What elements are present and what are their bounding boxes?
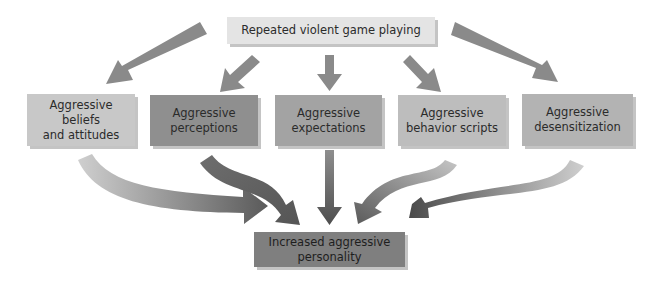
arrow-scripts-to-outcome: [354, 160, 457, 224]
arrow-to-expectations: [317, 55, 342, 91]
scripts-line2: behavior scripts: [406, 121, 498, 135]
box-aggressive-perceptions: Aggressive perceptions: [150, 95, 258, 146]
beliefs-label: Aggressive beliefs and attitudes: [31, 98, 131, 143]
box-aggressive-expectations: Aggressive expectations: [275, 95, 382, 146]
source-label: Repeated violent game playing: [241, 23, 421, 38]
outcome-line1: Increased aggressive: [269, 235, 391, 249]
box-aggressive-desensitization: Aggressive desensitization: [522, 94, 633, 146]
desensitization-line1: Aggressive: [546, 105, 609, 119]
scripts-label: Aggressive behavior scripts: [406, 106, 498, 136]
arrow-expectations-to-outcome: [317, 150, 342, 225]
expectations-line2: expectations: [292, 121, 366, 135]
expectations-label: Aggressive expectations: [292, 106, 366, 136]
beliefs-line1: Aggressive beliefs: [49, 98, 112, 127]
desensitization-line2: desensitization: [534, 120, 621, 134]
outcome-label: Increased aggressive personality: [269, 235, 391, 265]
perceptions-label: Aggressive perceptions: [170, 106, 238, 136]
outcome-line2: personality: [297, 250, 361, 264]
arrow-to-desensitization: [451, 22, 558, 82]
arrow-to-perceptions: [220, 55, 260, 92]
scripts-line1: Aggressive: [420, 106, 483, 120]
perceptions-line2: perceptions: [170, 121, 238, 135]
source-box-repeated-violent-game-playing: Repeated violent game playing: [227, 17, 435, 44]
perceptions-line1: Aggressive: [172, 106, 235, 120]
arrow-to-beliefs: [106, 22, 207, 84]
box-aggressive-beliefs-and-attitudes: Aggressive beliefs and attitudes: [27, 94, 135, 146]
expectations-line1: Aggressive: [297, 106, 360, 120]
beliefs-line2: and attitudes: [43, 128, 120, 142]
arrow-to-scripts: [403, 55, 441, 92]
box-aggressive-behavior-scripts: Aggressive behavior scripts: [398, 95, 506, 146]
outcome-box-increased-aggressive-personality: Increased aggressive personality: [254, 232, 405, 267]
desensitization-label: Aggressive desensitization: [534, 105, 621, 135]
